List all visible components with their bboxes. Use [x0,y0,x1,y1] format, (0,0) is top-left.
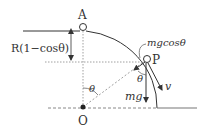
mgcos-component-arrow [134,62,145,70]
label-p: P [152,53,160,67]
label-mg: mg [125,90,142,103]
velocity-arrow [148,63,162,90]
label-theta-p: θ [137,73,143,84]
label-o: O [78,114,88,128]
hill-motion-diagram: A P O R(1−cosθ) mgcosθ mg v θ θ [0,0,202,129]
point-o-marker [81,105,86,110]
label-height-drop: R(1−cosθ) [11,42,69,55]
label-a: A [77,8,87,22]
point-a-marker [80,24,87,31]
label-mgcos: mgcosθ [147,37,186,48]
point-p-marker [144,56,151,63]
label-v: v [165,80,172,93]
label-theta-o: θ [89,83,95,94]
